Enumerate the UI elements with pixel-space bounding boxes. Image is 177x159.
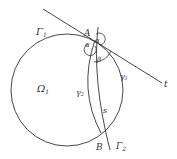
tangent-line-t [43,9,162,83]
label-beta: β [96,56,101,64]
label-point-A: A [83,28,91,38]
label-point-B: B [95,142,103,152]
label-s: s [103,106,107,115]
label-t: t [164,79,168,89]
circle-gamma1 [11,34,123,146]
curve-gamma2 [97,27,111,150]
geometry-diagram: Γ1 Ω1 A B α α β γ1 γ2 s t Γ2 [0,0,177,159]
label-gamma2-arc: γ2 [76,88,84,97]
label-omega1: Ω1 [36,83,49,95]
label-alpha-left: α [85,41,90,49]
label-gamma1-arc: γ1 [120,72,128,81]
label-Gamma2: Γ2 [115,141,126,152]
label-gamma1-circle: Γ1 [35,26,47,38]
label-alpha-right: α [95,37,100,45]
